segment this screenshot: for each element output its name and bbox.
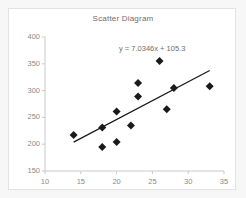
data-point xyxy=(98,143,106,151)
data-point xyxy=(156,57,164,65)
y-tick-label: 150 xyxy=(15,166,40,175)
x-tick-label: 25 xyxy=(140,177,164,186)
data-point xyxy=(127,121,135,129)
trendline xyxy=(74,71,210,143)
x-tick-label: 15 xyxy=(69,177,93,186)
data-point xyxy=(134,79,142,87)
x-tick-label: 10 xyxy=(33,177,57,186)
axes-group xyxy=(42,37,224,174)
data-point xyxy=(113,138,121,146)
x-tick-label: 35 xyxy=(212,177,236,186)
data-point xyxy=(206,82,214,90)
data-point xyxy=(98,124,106,132)
y-tick-label: 400 xyxy=(15,32,40,41)
data-points xyxy=(70,57,214,151)
x-tick-label: 20 xyxy=(105,177,129,186)
y-tick-label: 250 xyxy=(15,112,40,121)
data-point xyxy=(134,92,142,100)
y-tick-label: 300 xyxy=(15,86,40,95)
x-tick-label: 30 xyxy=(176,177,200,186)
y-tick-label: 350 xyxy=(15,59,40,68)
data-point xyxy=(163,105,171,113)
data-point xyxy=(70,131,78,139)
data-point xyxy=(113,108,121,116)
y-tick-label: 200 xyxy=(15,139,40,148)
scatter-chart-image: Scatter Diagram y = 7.0346x + 105.3 1502… xyxy=(0,0,246,198)
